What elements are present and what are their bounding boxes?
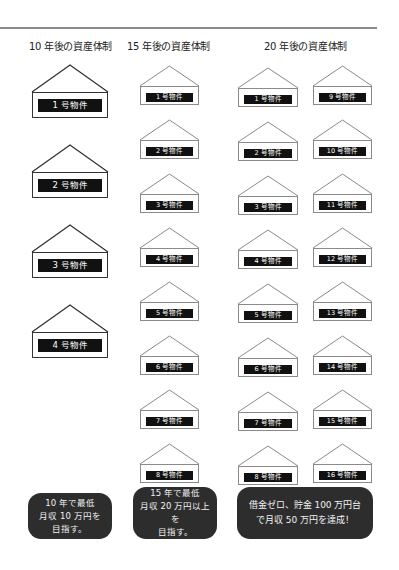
heading-20-years: 20 年後の資産体制 xyxy=(264,38,347,53)
house-body: 4 号物件 xyxy=(238,250,298,269)
house-body: 7 号物件 xyxy=(140,410,199,429)
roof-icon xyxy=(313,282,372,303)
house-body: 6 号物件 xyxy=(238,358,298,377)
house-body: 5 号物件 xyxy=(238,304,298,323)
property-label: 9 号物件 xyxy=(319,93,366,102)
house-body: 7 号物件 xyxy=(238,412,298,431)
house-property: 6 号物件 xyxy=(238,338,298,377)
house-body: 9 号物件 xyxy=(313,86,372,105)
house-body: 1 号物件 xyxy=(238,88,298,107)
roof-icon xyxy=(313,228,372,249)
goal-line: 月収 20 万円以上を xyxy=(139,500,211,526)
property-label: 12 号物件 xyxy=(319,255,366,264)
property-label: 3 号物件 xyxy=(146,201,193,210)
property-label: 13 号物件 xyxy=(319,309,366,318)
house-body: 10 号物件 xyxy=(313,140,372,159)
goal-line: 月収 10 万円を xyxy=(39,510,100,523)
roof-icon xyxy=(32,65,108,93)
house-property: 8 号物件 xyxy=(140,444,199,483)
house-body: 5 号物件 xyxy=(140,302,199,321)
roof-icon xyxy=(32,145,108,173)
house-body: 3 号物件 xyxy=(140,194,199,213)
house-body: 11 号物件 xyxy=(313,194,372,213)
house-property: 16 号物件 xyxy=(313,444,372,483)
property-label: 3 号物件 xyxy=(244,203,292,212)
house-body: 8 号物件 xyxy=(238,466,298,485)
house-property: 3 号物件 xyxy=(140,174,199,213)
property-label: 15 号物件 xyxy=(319,417,366,426)
property-label: 4 号物件 xyxy=(244,257,292,266)
goal-10-years: 10 年で最低 月収 10 万円を 目指す。 xyxy=(28,493,112,539)
roof-icon xyxy=(140,120,199,141)
roof-icon xyxy=(238,392,298,413)
house-body: 2 号物件 xyxy=(32,172,108,198)
house-body: 13 号物件 xyxy=(313,302,372,321)
property-label: 8 号物件 xyxy=(244,473,292,482)
house-property: 13 号物件 xyxy=(313,282,372,321)
goal-line: で月収 50 万円を達成！ xyxy=(249,513,362,528)
heading-15-years: 15 年後の資産体制 xyxy=(127,38,210,53)
house-property: 8 号物件 xyxy=(238,446,298,485)
goal-20-years: 借金ゼロ、貯金 100 万円台 で月収 50 万円を達成！ xyxy=(237,487,373,539)
goal-line: 目指す。 xyxy=(39,523,100,536)
property-label: 6 号物件 xyxy=(244,365,292,374)
roof-icon xyxy=(32,225,108,253)
roof-icon xyxy=(140,174,199,195)
house-body: 12 号物件 xyxy=(313,248,372,267)
house-body: 14 号物件 xyxy=(313,356,372,375)
house-body: 1 号物件 xyxy=(32,92,108,118)
house-body: 1 号物件 xyxy=(140,86,199,105)
roof-icon xyxy=(238,284,298,305)
roof-icon xyxy=(313,120,372,141)
roof-icon xyxy=(32,305,108,333)
house-body: 4 号物件 xyxy=(32,332,108,358)
house-property: 2 号物件 xyxy=(140,120,199,159)
roof-icon xyxy=(238,176,298,197)
house-property: 6 号物件 xyxy=(140,336,199,375)
property-label: 1 号物件 xyxy=(38,99,102,112)
property-label: 1 号物件 xyxy=(146,93,193,102)
house-property: 4 号物件 xyxy=(238,230,298,269)
roof-icon xyxy=(238,68,298,89)
top-rule xyxy=(0,27,377,29)
house-property: 2 号物件 xyxy=(238,122,298,161)
roof-icon xyxy=(313,390,372,411)
property-label: 6 号物件 xyxy=(146,363,193,372)
roof-icon xyxy=(313,336,372,357)
roof-icon xyxy=(140,444,199,465)
house-property: 5 号物件 xyxy=(238,284,298,323)
property-label: 11 号物件 xyxy=(319,201,366,210)
house-property: 5 号物件 xyxy=(140,282,199,321)
goal-line: 10 年で最低 xyxy=(39,497,100,510)
property-label: 2 号物件 xyxy=(244,149,292,158)
property-label: 14 号物件 xyxy=(319,363,366,372)
property-label: 4 号物件 xyxy=(146,255,193,264)
house-property: 15 号物件 xyxy=(313,390,372,429)
house-property: 2 号物件 xyxy=(32,145,108,198)
goal-15-years: 15 年で最低 月収 20 万円以上を 目指す。 xyxy=(133,487,217,539)
property-label: 8 号物件 xyxy=(146,471,193,480)
property-label: 7 号物件 xyxy=(244,419,292,428)
roof-icon xyxy=(313,444,372,465)
roof-icon xyxy=(140,336,199,357)
house-property: 9 号物件 xyxy=(313,66,372,105)
property-label: 10 号物件 xyxy=(319,147,366,156)
house-body: 2 号物件 xyxy=(140,140,199,159)
house-body: 15 号物件 xyxy=(313,410,372,429)
house-body: 8 号物件 xyxy=(140,464,199,483)
property-label: 1 号物件 xyxy=(244,95,292,104)
goal-line: 15 年で最低 xyxy=(139,487,211,500)
house-property: 12 号物件 xyxy=(313,228,372,267)
property-label: 2 号物件 xyxy=(38,179,102,192)
roof-icon xyxy=(140,390,199,411)
goal-line: 目指す。 xyxy=(139,526,211,539)
house-property: 11 号物件 xyxy=(313,174,372,213)
goal-line: 借金ゼロ、貯金 100 万円台 xyxy=(249,498,362,513)
property-label: 16 号物件 xyxy=(319,471,366,480)
house-property: 14 号物件 xyxy=(313,336,372,375)
house-property: 7 号物件 xyxy=(238,392,298,431)
house-property: 4 号物件 xyxy=(140,228,199,267)
roof-icon xyxy=(140,66,199,87)
house-body: 4 号物件 xyxy=(140,248,199,267)
roof-icon xyxy=(140,228,199,249)
